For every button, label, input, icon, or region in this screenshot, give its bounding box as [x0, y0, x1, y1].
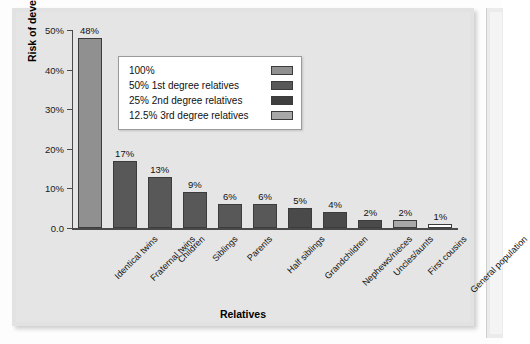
legend-swatch	[271, 96, 293, 105]
bar	[393, 220, 417, 228]
bar-value-label: 2%	[363, 207, 377, 218]
bar-column: 2%	[358, 30, 382, 228]
bar-value-label: 48%	[80, 25, 99, 36]
y-tick-label: 40%	[45, 64, 64, 75]
x-tick-label: Parents	[245, 234, 274, 263]
bar-value-label: 13%	[150, 164, 169, 175]
legend-item: 25% 2nd degree relatives	[129, 93, 293, 108]
bar	[358, 220, 382, 228]
bar-value-label: 2%	[398, 207, 412, 218]
x-axis-title: Relatives	[16, 308, 470, 320]
bar	[113, 161, 137, 228]
bar-value-label: 1%	[434, 211, 448, 222]
bar	[218, 204, 242, 228]
legend-item: 12.5% 3rd degree relatives	[129, 108, 293, 123]
legend-item: 100%	[129, 63, 293, 78]
legend-swatch	[271, 66, 293, 75]
x-tick-label: Siblings	[210, 234, 239, 263]
x-tick-label: Half siblings	[285, 234, 326, 275]
bar	[78, 38, 102, 228]
y-tick-label: 0.0	[51, 223, 64, 234]
legend-label: 12.5% 3rd degree relatives	[129, 110, 271, 121]
y-tick-label: 30%	[45, 104, 64, 115]
legend-label: 25% 2nd degree relatives	[129, 95, 264, 106]
adjacent-page-inner	[490, 12, 502, 334]
y-axis-title: Risk of developing schizophrenia	[26, 0, 38, 62]
bar-column: 48%	[78, 30, 102, 228]
legend-item: 50% 1st degree relatives	[129, 78, 293, 93]
legend-label: 50% 1st degree relatives	[129, 80, 261, 91]
bar-column: 1%	[428, 30, 452, 228]
bar	[183, 192, 207, 228]
x-tick-label: Grandchildren	[323, 234, 370, 281]
x-axis-line	[72, 228, 458, 230]
bar-value-label: 17%	[115, 148, 134, 159]
bar	[323, 212, 347, 228]
chart-panel: Risk of developing schizophrenia 50%40%3…	[16, 12, 470, 322]
bar-value-label: 6%	[223, 191, 237, 202]
y-tick-label: 50%	[45, 25, 64, 36]
bar	[253, 204, 277, 228]
bar-column: 2%	[393, 30, 417, 228]
bar	[288, 208, 312, 228]
bar-value-label: 4%	[328, 199, 342, 210]
bar-column: 4%	[323, 30, 347, 228]
y-tick-mark	[67, 228, 72, 229]
bar-value-label: 5%	[293, 195, 307, 206]
bar	[148, 177, 172, 228]
bar	[428, 224, 452, 228]
y-tick-label: 10%	[45, 183, 64, 194]
legend-label: 100%	[129, 65, 177, 76]
chart-figure: Risk of developing schizophrenia 50%40%3…	[12, 8, 474, 326]
legend-swatch	[271, 81, 293, 90]
y-tick-label: 20%	[45, 143, 64, 154]
bar-value-label: 6%	[258, 191, 272, 202]
legend-swatch	[271, 111, 293, 120]
bar-value-label: 9%	[188, 179, 202, 190]
chart-legend: 100%50% 1st degree relatives25% 2nd degr…	[118, 56, 302, 130]
